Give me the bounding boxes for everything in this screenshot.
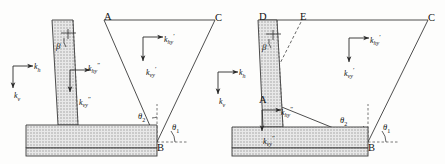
force-label-left-kh: kh [34,63,41,73]
force-label-left-kvy-dprime: kvy″ [79,96,91,108]
force-label-right-khy-prime: khy′ [370,34,381,46]
force-label-left-kvy-prime: kvy′ [146,66,156,78]
diagram-vector-layer [0,0,445,164]
force-label-left-khy-prime: khy′ [164,33,175,45]
left-wall-footing [26,125,157,148]
angle-label-right-beta: β [262,43,266,52]
force-label-left-khy-dprime: khy″ [88,62,100,74]
angle-label-left-theta2: θ2 [138,112,145,123]
left-panel-geometry [13,20,215,156]
point-label-right-A: A [259,95,267,106]
point-label-right-D: D [259,12,267,23]
point-label-right-C: C [428,13,435,24]
angle-label-right-theta2: θ2 [340,116,347,127]
left-theta2-arc [152,117,157,118]
figure-canvas: ABCθ2θ1βkhkvkhy″kvy″khy′kvy′DEABCθ2θ1βkh… [0,0,445,164]
right-foundation-soil [232,148,368,156]
angle-label-right-theta1: θ1 [383,123,390,134]
force-label-right-khy-dprime: khy″ [281,106,293,118]
point-label-right-B: B [368,143,375,154]
angle-label-left-theta1: θ1 [172,123,179,134]
force-label-right-kh: kh [239,69,246,79]
angle-label-left-beta: β [56,42,60,51]
force-label-right-kv: kv [219,98,225,108]
force-label-left-kv: kv [14,92,20,102]
point-label-left-B: B [157,143,164,154]
left-wedge-line-AB [104,20,157,142]
right-panel-geometry [218,20,428,156]
point-label-right-E: E [300,12,306,23]
force-label-right-kvy-prime: kvy′ [344,67,354,79]
left-wall-stem [52,20,78,125]
right-wall-footing [232,127,368,148]
point-label-left-C: C [215,13,222,24]
point-label-left-A: A [104,12,112,23]
force-label-right-kvy-dprime: kvy″ [263,135,275,147]
left-foundation-soil [26,148,157,156]
